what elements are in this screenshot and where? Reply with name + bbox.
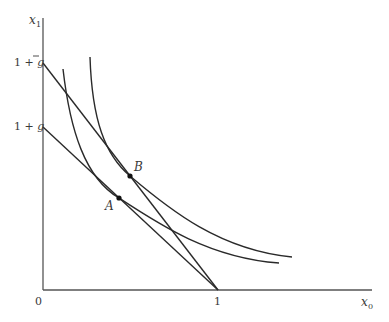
diagram-canvas: A B x 1 x 0 0 1 1 + g 1 + g	[0, 0, 389, 322]
y-tick-label-1-plus-g-bar: 1 + g	[14, 56, 44, 69]
y-tick-label-1-plus-g: 1 + g	[14, 120, 44, 133]
x-axis-subscript: 0	[368, 302, 373, 311]
point-b-marker	[127, 173, 132, 178]
point-a-label: A	[104, 199, 114, 213]
y-axis-label: x	[29, 13, 36, 27]
x-tick-label-1: 1	[214, 295, 221, 308]
flat-budget-line	[43, 127, 218, 290]
y-axis-subscript: 1	[36, 20, 41, 29]
point-b-label: B	[133, 160, 143, 174]
point-a-marker	[116, 195, 121, 200]
x-axis-label: x	[361, 295, 368, 309]
origin-label: 0	[35, 295, 42, 308]
inner-indifference-curve	[63, 69, 279, 263]
outer-indifference-curve	[90, 57, 292, 257]
